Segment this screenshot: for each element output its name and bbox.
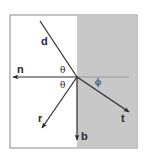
vector-b-label: b [81,130,88,142]
angle-label-0: θ [60,65,65,75]
vector-t-label: t [121,112,125,124]
refraction-diagram: dnrtbθθϕ [0,0,147,157]
vector-d-label: d [41,35,48,47]
second-medium-region [77,16,137,148]
angle-label-1: θ [60,80,65,90]
vector-r-label: r [38,112,43,124]
vector-n-label: n [17,63,24,75]
angle-label-2: ϕ [95,77,101,87]
